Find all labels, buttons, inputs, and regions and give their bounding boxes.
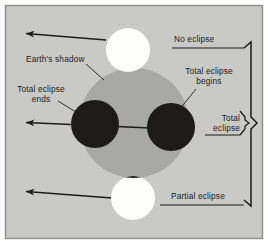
label-earths-shadow: Earth's shadow: [26, 55, 85, 65]
moon-total-eclipse-ends: [71, 100, 119, 148]
label-total-eclipse-line2: eclipse: [195, 124, 240, 134]
moon-no-eclipse: [106, 28, 150, 72]
label-partial-eclipse: Partial eclipse: [171, 192, 225, 202]
eclipse-diagram-figure: No eclipse Earth's shadow Total eclipse …: [0, 0, 268, 244]
moon-total-eclipse-begins: [147, 103, 195, 151]
label-total-eclipse-begins-line2: begins: [177, 77, 241, 87]
moon-partial-eclipse: [111, 176, 155, 220]
label-no-eclipse: No eclipse: [174, 35, 214, 45]
label-total-eclipse-ends-line2: ends: [9, 95, 73, 105]
